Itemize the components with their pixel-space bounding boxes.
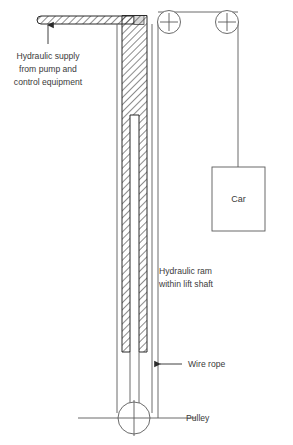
ram-cylinder-walls — [122, 16, 147, 353]
bottom-pulley — [78, 400, 196, 436]
supply-label-line2: from pump and — [19, 64, 77, 74]
diagram-canvas: Car Hydraulic supply from pump and contr… — [0, 0, 293, 445]
pulley-label: Pulley — [186, 413, 210, 423]
top-left-pulley — [158, 11, 181, 34]
lift-car: Car — [212, 167, 265, 231]
wire-rope-annotation: Wire rope — [160, 359, 225, 369]
pulley-annotation: Pulley — [186, 413, 210, 423]
ram-label-line2: within lift shaft — [158, 279, 214, 289]
hydraulic-supply-pipe — [37, 16, 134, 24]
lift-car-label: Car — [231, 194, 246, 204]
supply-label-line1: Hydraulic supply — [16, 51, 80, 61]
supply-label-line3: control equipment — [14, 77, 83, 87]
wire-rope-label: Wire rope — [188, 359, 225, 369]
top-right-pulley — [216, 11, 239, 34]
hydraulic-ram-cylinder — [117, 16, 152, 414]
hydraulic-ram-annotation: Hydraulic ram within lift shaft — [158, 266, 214, 289]
supply-pipe-body — [37, 16, 134, 24]
ram-label-line1: Hydraulic ram — [159, 266, 212, 276]
hydraulic-lift-diagram: Car Hydraulic supply from pump and contr… — [0, 0, 293, 445]
hydraulic-supply-annotation: Hydraulic supply from pump and control e… — [14, 25, 83, 87]
